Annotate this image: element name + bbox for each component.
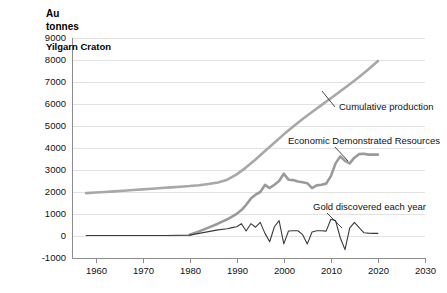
x-tick-label-1970: 1970 (133, 265, 154, 276)
y-tick-label-7000: 7000 (45, 76, 66, 87)
series-line-0 (86, 61, 378, 193)
x-tick-label-2010: 2010 (321, 265, 342, 276)
annotation-label-0: Cumulative production (339, 101, 434, 112)
x-tick-label-1980: 1980 (180, 265, 201, 276)
y-tick-label-8000: 8000 (45, 54, 66, 65)
chart-subtitle: Yilgarn Craton (46, 41, 111, 52)
y-tick-label-4000: 4000 (45, 142, 66, 153)
x-tick-label-2030: 2030 (415, 265, 436, 276)
chart-title-line1: Au (46, 8, 59, 19)
x-tick-label-2000: 2000 (274, 265, 295, 276)
chart-container: -100001000200030004000500060007000800090… (0, 0, 447, 293)
y-tick-label--1000: -1000 (42, 252, 66, 263)
chart-title-line2: tonnes (46, 21, 79, 32)
annotation-label-2: Gold discovered each year (313, 201, 426, 212)
y-tick-label-0: 0 (61, 230, 66, 241)
data-series (86, 61, 378, 250)
y-tick-label-5000: 5000 (45, 120, 66, 131)
y-tick-label-2000: 2000 (45, 186, 66, 197)
series-line-1 (190, 154, 378, 235)
x-axis-tick-labels: 19601970198019902000201020202030 (86, 258, 436, 276)
x-tick-label-2020: 2020 (368, 265, 389, 276)
annotation-label-1: Economic Demonstrated Resources (288, 135, 440, 146)
chart-svg: -100001000200030004000500060007000800090… (0, 0, 447, 293)
series-line-2 (86, 219, 378, 249)
y-axis-tick-labels: -100001000200030004000500060007000800090… (42, 32, 66, 263)
y-tick-label-6000: 6000 (45, 98, 66, 109)
y-tick-label-1000: 1000 (45, 208, 66, 219)
x-tick-label-1990: 1990 (227, 265, 248, 276)
x-tick-label-1960: 1960 (86, 265, 107, 276)
y-tick-label-3000: 3000 (45, 164, 66, 175)
annotation-leader-2 (327, 213, 342, 228)
